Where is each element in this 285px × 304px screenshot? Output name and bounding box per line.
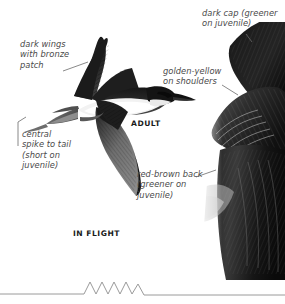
label-dark-wings: dark wings with bronze patch — [20, 39, 69, 70]
label-golden-yellow: golden-yellow on shoulders — [163, 66, 221, 87]
caption-in-flight: IN FLIGHT — [73, 229, 120, 238]
label-central-spike: central spike to tail (short on juvenile… — [22, 129, 71, 171]
caption-adult: ADULT — [131, 119, 161, 128]
field-guide-plate: dark cap (greener on juvenile) dark wing… — [0, 0, 285, 304]
bird-perched-photo — [196, 22, 285, 280]
label-red-brown-back: red-brown back (greener on juvenile) — [137, 169, 203, 200]
call-waveform — [0, 262, 285, 304]
label-dark-cap: dark cap (greener on juvenile) — [202, 8, 278, 29]
